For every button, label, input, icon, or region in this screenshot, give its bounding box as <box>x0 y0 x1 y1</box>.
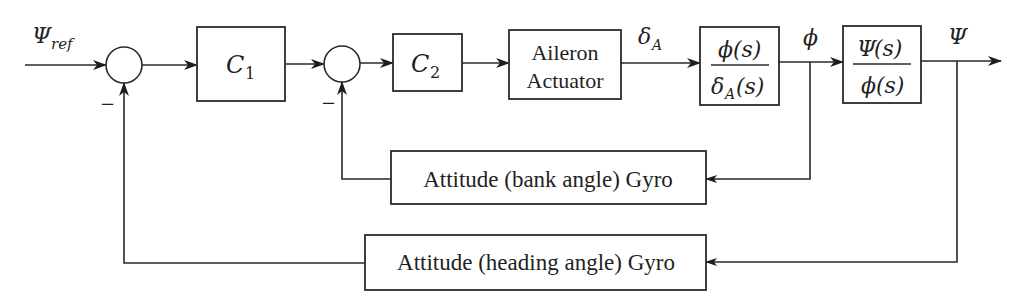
signal-delta-a-label: δ A <box>638 24 662 53</box>
roll-tf-denominator-arg: (s) <box>736 74 764 99</box>
aileron-actuator-block: Aileron Actuator <box>509 30 621 99</box>
controller-c1-block: C 1 <box>197 27 285 101</box>
heading-gyro-label: Attitude (heading angle) Gyro <box>397 250 675 275</box>
roll-tf-numerator-arg: (s) <box>733 37 761 62</box>
psi-ref-subscript: ref <box>51 35 75 53</box>
actuator-label-line2: Actuator <box>527 68 605 93</box>
heading-tf-denominator-arg: (s) <box>876 73 904 98</box>
delta-a-symbol: δ <box>638 24 651 49</box>
roll-tf-numerator-symbol: ϕ <box>718 37 733 62</box>
heading-tf-numerator-arg: (s) <box>874 36 902 61</box>
heading-transfer-function-block: Ψ (s) ϕ (s) <box>843 26 921 103</box>
summing-junction-1: − <box>100 47 142 114</box>
bank-gyro-label: Attitude (bank angle) Gyro <box>423 167 673 192</box>
sum-circle-1 <box>106 47 142 83</box>
roll-transfer-function-block: ϕ (s) δ A (s) <box>700 27 779 105</box>
minus-sign-2: − <box>321 92 336 113</box>
c2-subscript: 2 <box>430 63 440 82</box>
c1-subscript: 1 <box>245 64 255 83</box>
controller-c2-block: C 2 <box>393 34 462 91</box>
summing-junction-2: − <box>321 46 360 113</box>
phi-signal-label: ϕ <box>803 25 818 50</box>
psi-output-label: Ψ <box>948 24 968 49</box>
block-diagram: Ψ ref − C 1 − C 2 Aileron Actuator δ A <box>0 0 1027 307</box>
input-reference-heading: Ψ ref <box>25 23 106 65</box>
heading-tf-denominator-symbol: ϕ <box>861 73 876 98</box>
minus-sign-1: − <box>100 93 115 114</box>
c1-symbol: C <box>226 51 244 79</box>
psi-ref-symbol: Ψ <box>32 23 52 48</box>
sum-circle-2 <box>324 46 360 82</box>
roll-tf-denominator-subscript: A <box>723 86 735 102</box>
bank-gyro-to-sum2-line <box>342 82 391 179</box>
delta-a-subscript: A <box>650 37 662 53</box>
roll-tf-denominator-symbol: δ <box>711 74 724 99</box>
c2-symbol: C <box>411 50 429 78</box>
actuator-label-line1: Aileron <box>531 40 598 65</box>
